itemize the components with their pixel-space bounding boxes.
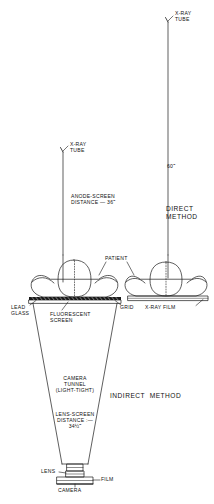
diagram-canvas xyxy=(0,0,214,504)
left-tube-apex-tick xyxy=(61,148,64,153)
label-patient: PATIENT xyxy=(105,255,128,261)
label-fluorescent-screen: FLUORESCENT SCREEN xyxy=(50,311,91,323)
left-patient-left-lobe xyxy=(32,278,54,283)
left-screen-band xyxy=(29,300,121,303)
label-grid: GRID xyxy=(120,304,134,310)
label-lens-screen-distance: LENS-SCREEN DISTANCE :— 34½˝ xyxy=(46,411,104,429)
patient-leader-right xyxy=(127,262,134,275)
label-direct-method: DIRECT METHOD xyxy=(166,205,198,221)
left-patient-right-lobe xyxy=(95,278,117,283)
label-indirect-method: INDIRECT METHOD xyxy=(110,392,181,400)
label-xray-tube-right: X-RAY TUBE xyxy=(175,10,191,22)
right-tube-leader xyxy=(168,16,173,21)
label-lead-glass: LEAD GLASS xyxy=(11,304,29,316)
label-xray-tube-left: X-RAY TUBE xyxy=(70,141,86,153)
radiography-diagram: X-RAY TUBE X-RAY TUBE 60˝ ANODE-SCREEN D… xyxy=(0,0,214,504)
label-lens: LENS xyxy=(41,468,55,474)
label-xray-film: X-RAY FILM xyxy=(145,304,176,310)
label-camera-tunnel: CAMERA TUNNEL (LIGHT-TIGHT) xyxy=(44,375,106,393)
label-camera: CAMERA xyxy=(58,487,81,493)
patient-leader-left xyxy=(99,262,106,275)
label-source-image-distance: 60˝ xyxy=(167,163,175,169)
label-film: FILM xyxy=(101,476,114,482)
left-patient-torso xyxy=(31,275,118,297)
right-tube-apex-tick xyxy=(166,18,169,23)
label-anode-screen-distance: ANODE-SCREEN DISTANCE — 36˝ xyxy=(71,193,115,205)
lens-leader xyxy=(59,472,66,473)
left-tube-leader xyxy=(63,146,68,151)
left-grid-band xyxy=(29,297,121,300)
